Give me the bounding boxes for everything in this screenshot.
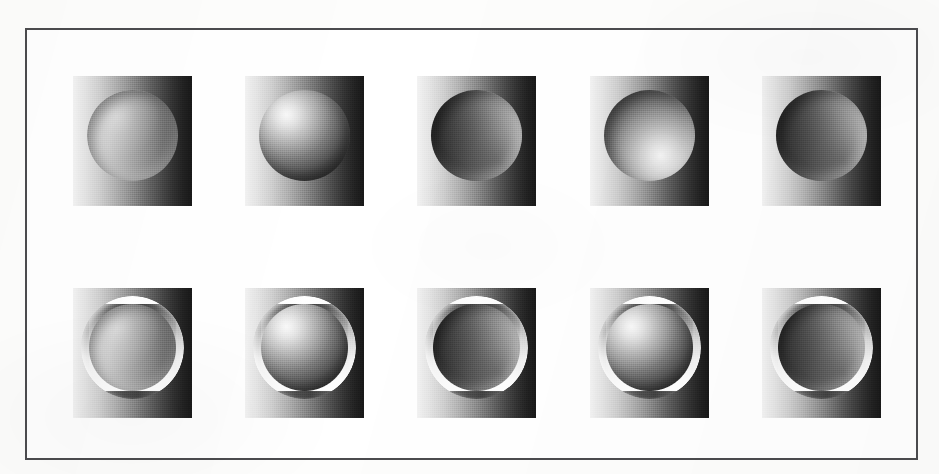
disk-inner-edge-shading xyxy=(431,302,522,393)
figure-frame: concave-crater-faint convex-sphere con xyxy=(25,28,918,460)
disk-inner-edge-shading xyxy=(604,90,695,181)
sphere-disk xyxy=(604,90,695,181)
stimulus-row-top: concave-crater-faint convex-sphere con xyxy=(27,76,916,206)
stimulus-tile-5: concave-crater xyxy=(762,76,881,206)
stimulus-tile-1: concave-crater-faint xyxy=(73,76,192,206)
disk-inner-edge-shading xyxy=(87,90,178,181)
disk-edge-shading xyxy=(259,90,350,181)
stimulus-row-bottom: concave-crater-faint convex-sphere xyxy=(27,288,916,418)
disk-inner-edge-shading xyxy=(87,302,178,393)
disk-edge-shading xyxy=(604,302,695,393)
crater-disk xyxy=(87,302,178,393)
sphere-disk xyxy=(604,302,695,393)
sphere-disk xyxy=(259,90,350,181)
crater-disk xyxy=(431,90,522,181)
disk-inner-edge-shading xyxy=(431,90,522,181)
disk-highlight-overlay xyxy=(259,90,350,181)
stimulus-tile-2: convex-sphere xyxy=(245,76,364,206)
stimulus-tile-10: concave-crater xyxy=(762,288,881,418)
stimulus-tile-6: concave-crater-faint xyxy=(73,288,192,418)
disk-highlight-overlay xyxy=(604,90,695,181)
disk-shadow-overlay xyxy=(776,90,867,181)
crater-disk xyxy=(431,302,522,393)
disk-shadow-overlay xyxy=(431,90,522,181)
disk-shadow-overlay xyxy=(431,302,522,393)
disk-shadow-overlay xyxy=(776,302,867,393)
stimulus-tile-9: convex-sphere xyxy=(590,288,709,418)
crater-disk xyxy=(87,90,178,181)
stimulus-tile-8: concave-crater xyxy=(417,288,536,418)
disk-inner-edge-shading xyxy=(776,302,867,393)
disk-highlight-overlay xyxy=(604,302,695,393)
disk-inner-edge-shading xyxy=(776,90,867,181)
disk-highlight-overlay xyxy=(87,302,178,393)
stimulus-tile-4: convex-sphere-lower-right-lit xyxy=(590,76,709,206)
sphere-disk xyxy=(259,302,350,393)
stimulus-tile-7: convex-sphere xyxy=(245,288,364,418)
disk-highlight-overlay xyxy=(87,90,178,181)
stimulus-grid: concave-crater-faint convex-sphere con xyxy=(27,30,916,458)
disk-highlight-overlay xyxy=(259,302,350,393)
disk-edge-shading xyxy=(259,302,350,393)
stimulus-tile-3: concave-crater xyxy=(417,76,536,206)
crater-disk xyxy=(776,90,867,181)
crater-disk xyxy=(776,302,867,393)
